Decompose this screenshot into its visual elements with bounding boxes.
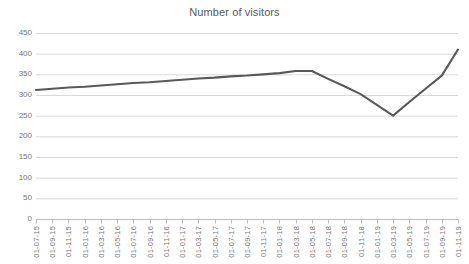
x-tick-label: 01-05-17 <box>211 226 220 258</box>
x-tick-label: 01-03-17 <box>194 226 203 258</box>
x-tick-label: 01-03-18 <box>292 226 301 258</box>
x-tick-label: 01-11-19 <box>454 226 463 257</box>
x-tick-label: 01-01-19 <box>373 226 382 258</box>
x-tick-label: 01-09-19 <box>438 226 447 258</box>
x-tick-label: 01-11-17 <box>259 226 268 257</box>
chart-container: Number of visitors 050100150200250300350… <box>0 0 469 264</box>
x-tick-label: 01-09-18 <box>340 226 349 258</box>
x-tick-label: 01-07-19 <box>422 226 431 258</box>
x-tick-label: 01-09-16 <box>146 226 155 258</box>
x-axis-tick-labels: 01-07-1501-09-1501-11-1501-01-1601-03-16… <box>0 0 469 264</box>
x-tick-label: 01-07-15 <box>32 226 41 258</box>
x-tick-label: 01-09-17 <box>243 226 252 258</box>
x-tick-label: 01-01-16 <box>81 226 90 258</box>
x-tick-label: 01-03-16 <box>97 226 106 258</box>
x-tick-label: 01-07-18 <box>324 226 333 258</box>
x-tick-label: 01-07-16 <box>129 226 138 258</box>
x-tick-label: 01-07-17 <box>227 226 236 258</box>
x-tick-label: 01-11-18 <box>357 226 366 257</box>
x-tick-label: 01-01-17 <box>178 226 187 258</box>
x-tick-label: 01-09-15 <box>48 226 57 258</box>
x-tick-label: 01-05-18 <box>308 226 317 258</box>
x-tick-label: 01-11-15 <box>64 226 73 257</box>
x-tick-label: 01-05-16 <box>113 226 122 258</box>
x-tick-label: 01-03-19 <box>389 226 398 258</box>
x-tick-label: 01-05-19 <box>405 226 414 258</box>
x-tick-label: 01-01-18 <box>275 226 284 258</box>
x-tick-label: 01-11-16 <box>162 226 171 257</box>
